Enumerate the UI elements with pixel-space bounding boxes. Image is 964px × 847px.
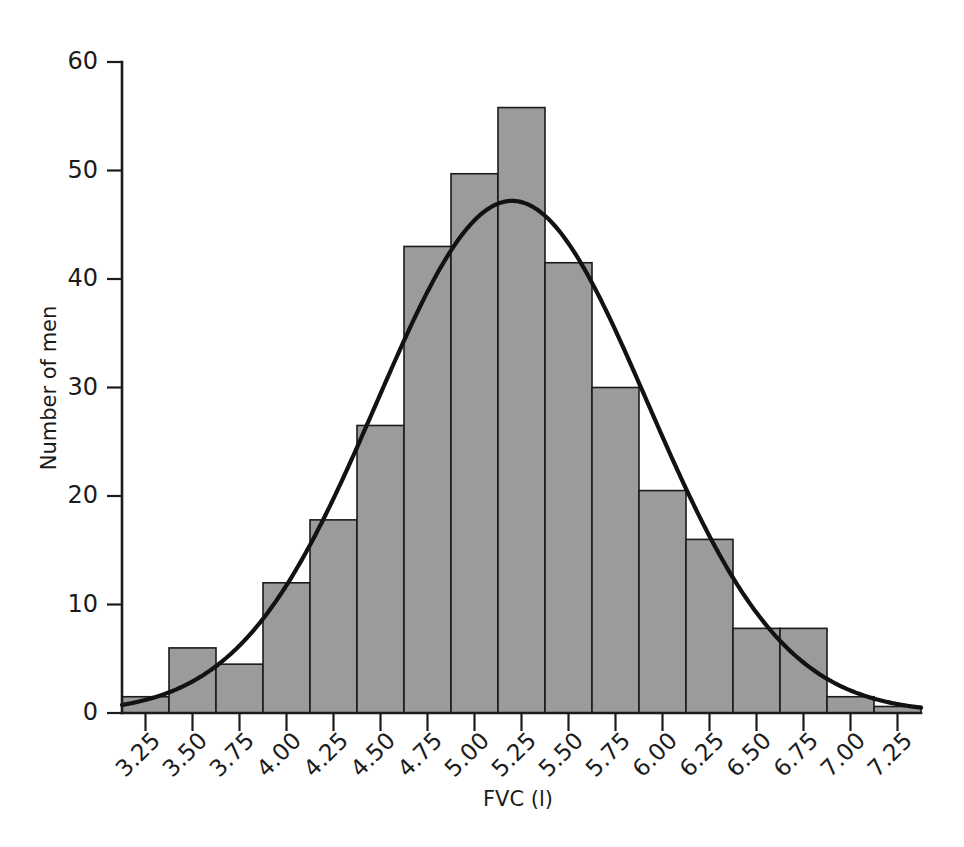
histogram-bar bbox=[733, 628, 780, 713]
y-tick-label: 60 bbox=[67, 47, 98, 75]
y-tick-label: 0 bbox=[83, 698, 98, 726]
histogram-bar bbox=[780, 628, 827, 713]
y-axis-title: Number of men bbox=[37, 306, 61, 471]
y-tick-label: 20 bbox=[67, 481, 98, 509]
histogram-bar bbox=[357, 425, 404, 713]
y-tick-label: 50 bbox=[67, 156, 98, 184]
histogram-bar bbox=[451, 174, 498, 713]
histogram-figure: 0102030405060 3.253.503.754.004.254.504.… bbox=[0, 0, 964, 847]
histogram-bar bbox=[263, 583, 310, 713]
histogram-bar bbox=[545, 263, 592, 713]
histogram-bar bbox=[592, 388, 639, 714]
chart-canvas: 0102030405060 3.253.503.754.004.254.504.… bbox=[0, 0, 964, 847]
y-tick-label: 30 bbox=[67, 373, 98, 401]
histogram-bar bbox=[827, 697, 874, 713]
histogram-bar bbox=[498, 108, 545, 713]
histogram-bar bbox=[639, 491, 686, 713]
y-tick-label: 10 bbox=[67, 590, 98, 618]
histogram-bar bbox=[404, 246, 451, 713]
histogram-bar bbox=[310, 520, 357, 713]
histogram-bar bbox=[216, 664, 263, 713]
y-tick-label: 40 bbox=[67, 264, 98, 292]
x-axis-title: FVC (l) bbox=[483, 787, 553, 811]
